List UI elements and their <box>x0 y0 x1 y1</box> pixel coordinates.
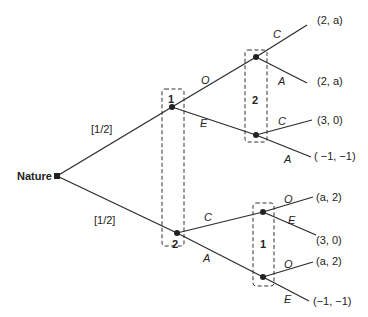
edge-O-C <box>256 25 307 57</box>
payoff-2: (2, a) <box>317 75 343 87</box>
player2-node-after-E <box>253 132 259 138</box>
edge-A <box>177 233 263 277</box>
action-O-A: A <box>277 75 285 87</box>
edge-E <box>172 107 256 135</box>
payoff-5: (a, 2) <box>316 191 342 203</box>
player-label-1-upper: 1 <box>168 93 174 105</box>
payoff-8: (−1, −1) <box>313 295 352 307</box>
action-E-C: C <box>278 115 286 127</box>
game-tree-diagram: Nature [1/2] [1/2] 1 2 2 1 O E C A C A C… <box>0 0 368 317</box>
player2-node-after-O <box>253 54 259 60</box>
action-O-C: C <box>273 28 281 40</box>
edge-nature-upper <box>57 107 172 176</box>
payoff-7: (a, 2) <box>316 255 342 267</box>
action-C: C <box>204 211 212 223</box>
nature-node <box>54 173 60 179</box>
action-A-E: E <box>284 293 292 305</box>
player2-node-lower <box>174 230 180 236</box>
probability-lower: [1/2] <box>94 214 115 226</box>
probability-upper: [1/2] <box>91 123 112 135</box>
edge-C <box>177 212 263 233</box>
action-E-A: A <box>283 153 291 165</box>
action-C-O: O <box>284 193 293 205</box>
edge-nature-lower <box>57 176 177 233</box>
player1-node-after-A <box>260 274 266 280</box>
payoff-1: (2, a) <box>317 14 343 26</box>
payoff-4: ( −1, −1) <box>314 150 356 162</box>
player-label-1-lower: 1 <box>260 238 266 250</box>
action-O: O <box>201 74 210 86</box>
action-E: E <box>200 117 208 129</box>
action-A: A <box>202 252 210 264</box>
info-set-player1-upper <box>162 89 184 246</box>
nature-label: Nature <box>17 170 52 182</box>
edge-O <box>172 57 256 107</box>
payoff-3: (3, 0) <box>317 114 343 126</box>
player1-node-after-C <box>260 209 266 215</box>
action-C-E: E <box>288 214 296 226</box>
action-A-O: O <box>284 258 293 270</box>
player-label-2-lower: 2 <box>172 238 178 250</box>
player-label-2-upper: 2 <box>252 94 258 106</box>
payoff-6: (3, 0) <box>316 234 342 246</box>
